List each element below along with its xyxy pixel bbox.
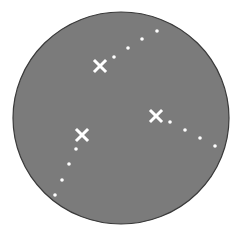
gray-disk xyxy=(13,12,229,224)
dot-marker xyxy=(74,147,78,151)
dot-marker xyxy=(213,144,217,148)
dot-marker xyxy=(168,120,172,124)
dot-marker xyxy=(112,55,116,59)
dot-marker xyxy=(67,162,71,166)
dot-marker xyxy=(183,128,187,132)
dot-marker xyxy=(53,193,57,197)
dot-marker xyxy=(126,46,130,50)
diagram-canvas xyxy=(0,0,242,235)
dot-marker xyxy=(140,37,144,41)
dot-marker xyxy=(155,29,159,33)
dot-marker xyxy=(60,178,64,182)
dot-marker xyxy=(198,136,202,140)
